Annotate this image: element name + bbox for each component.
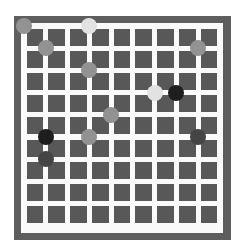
- stone-black[interactable]: [38, 129, 54, 145]
- board-cell: [201, 73, 218, 90]
- board-cell: [92, 162, 109, 179]
- board-cell: [135, 184, 152, 201]
- board-cell: [157, 140, 174, 157]
- board-cell: [201, 184, 218, 201]
- board-cell: [114, 51, 131, 68]
- board-cell: [70, 162, 87, 179]
- game-board-container: [0, 0, 241, 244]
- board-cell: [114, 184, 131, 201]
- stone-light[interactable]: [147, 85, 163, 101]
- board-cell: [114, 29, 131, 46]
- board-cell: [48, 206, 65, 223]
- stone-dark[interactable]: [38, 151, 54, 167]
- stone-dark[interactable]: [190, 129, 206, 145]
- board-cell: [201, 206, 218, 223]
- board-cell: [27, 73, 44, 90]
- board-cell: [201, 95, 218, 112]
- board-cell: [27, 95, 44, 112]
- stone-gray[interactable]: [38, 40, 54, 56]
- board-cell: [157, 51, 174, 68]
- board-cell: [70, 95, 87, 112]
- stone-gray[interactable]: [16, 18, 32, 34]
- board-cell: [179, 206, 196, 223]
- board-cell: [114, 73, 131, 90]
- stone-gray[interactable]: [190, 40, 206, 56]
- board-cell: [114, 206, 131, 223]
- board-cell: [135, 140, 152, 157]
- board-cell: [27, 206, 44, 223]
- board-cell: [27, 184, 44, 201]
- board-cell: [157, 29, 174, 46]
- board-cell: [135, 117, 152, 134]
- board-cell: [48, 95, 65, 112]
- board-cell: [114, 140, 131, 157]
- stone-gray[interactable]: [81, 62, 97, 78]
- board-cell: [179, 184, 196, 201]
- board-cell: [48, 73, 65, 90]
- stone-light[interactable]: [81, 18, 97, 34]
- board-cell: [92, 184, 109, 201]
- board-cell: [92, 206, 109, 223]
- board-cell: [135, 29, 152, 46]
- stone-black[interactable]: [168, 85, 184, 101]
- board-cell: [135, 206, 152, 223]
- board-cell: [70, 206, 87, 223]
- board-cell: [179, 162, 196, 179]
- board-cell: [157, 184, 174, 201]
- stone-gray[interactable]: [81, 129, 97, 145]
- board-cell: [157, 162, 174, 179]
- board-cell: [201, 162, 218, 179]
- board-cell: [70, 184, 87, 201]
- board-cell: [48, 184, 65, 201]
- board-cell: [157, 117, 174, 134]
- board-cell: [135, 162, 152, 179]
- board-cell: [114, 162, 131, 179]
- stone-gray[interactable]: [103, 107, 119, 123]
- board-cell: [135, 51, 152, 68]
- board-cell: [157, 206, 174, 223]
